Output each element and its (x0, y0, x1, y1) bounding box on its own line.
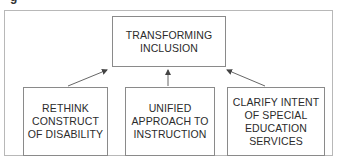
node-transforming-inclusion: TRANSFORMING INCLUSION (112, 16, 226, 67)
figure-caption-fragment: g (10, 0, 17, 3)
node-unified-approach-to-instruction: UNIFIED APPROACH TO INSTRUCTION (125, 87, 215, 156)
node-clarify-intent-of-special-education-services: CLARIFY INTENT OF SPECIAL EDUCATION SERV… (227, 87, 325, 156)
node-rethink-construct-of-disability: RETHINK CONSTRUCT OF DISABILITY (23, 87, 108, 156)
